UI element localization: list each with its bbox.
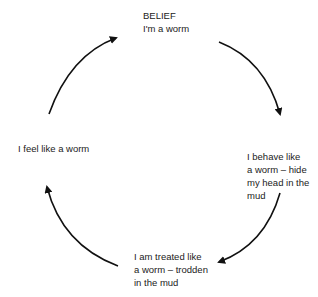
node-behave: I behave like a worm – hide my head in t… [247, 150, 309, 202]
arrow-behave-to-treated [219, 193, 280, 262]
node-behave-line: I behave like [247, 150, 309, 163]
node-behave-line: my head in the [247, 176, 309, 189]
node-treated-line: a worm – trodden [134, 263, 208, 276]
arrow-treated-to-feel [47, 187, 118, 266]
node-belief-line: BELIEF [143, 9, 189, 22]
node-belief-line: I'm a worm [143, 22, 189, 35]
node-feel: I feel like a worm [18, 142, 89, 155]
node-belief: BELIEF I'm a worm [143, 9, 189, 35]
node-treated-line: I am treated like [134, 250, 208, 263]
arrow-feel-to-belief [49, 38, 116, 114]
node-behave-line: a worm – hide [247, 163, 309, 176]
node-behave-line: mud [247, 189, 309, 202]
arrow-belief-to-behave [219, 42, 280, 114]
node-treated-line: in the mud [134, 276, 208, 289]
node-treated: I am treated like a worm – trodden in th… [134, 250, 208, 289]
node-feel-line: I feel like a worm [18, 142, 89, 155]
